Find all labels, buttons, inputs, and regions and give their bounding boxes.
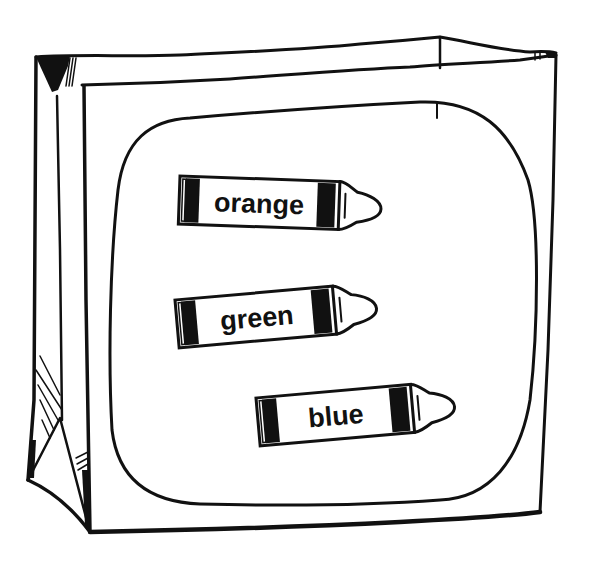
crayon-label-green: green (219, 300, 295, 336)
crayon-orange: orange (178, 176, 382, 231)
crayon-green: green (175, 283, 378, 348)
crayon-label-orange: orange (214, 187, 305, 220)
crayon-blue: blue (256, 381, 456, 446)
crayon-list: orange green blue (175, 176, 456, 446)
paper-bag (28, 37, 556, 532)
crayon-label-blue: blue (307, 399, 365, 434)
bag-corner-shading (36, 56, 70, 92)
paper-bag-illustration: orange green blue (0, 0, 594, 567)
